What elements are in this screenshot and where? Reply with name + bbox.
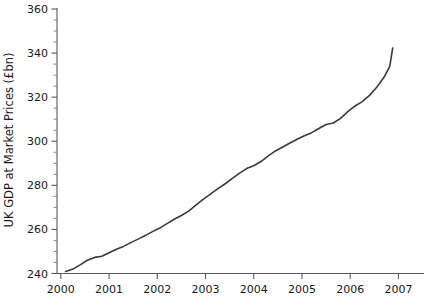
y-tick-label: 280 (27, 179, 48, 192)
x-tick-label: 2002 (143, 283, 171, 296)
y-tick-label: 300 (27, 135, 48, 148)
chart-figure: 240260280300320340360 UK GDP at Market P… (0, 0, 433, 304)
y-axis-title: UK GDP at Market Prices (£bn) (2, 53, 16, 228)
x-tick-label: 2003 (192, 283, 220, 296)
x-tick-label: 2004 (240, 283, 268, 296)
y-tick-label: 340 (27, 47, 48, 60)
y-tick-label: 360 (27, 3, 48, 16)
x-tick-label: 2001 (95, 283, 123, 296)
x-tick-label: 2006 (336, 283, 364, 296)
y-tick-label: 320 (27, 91, 48, 104)
x-tick-label: 2007 (384, 283, 412, 296)
x-tick-label: 2000 (47, 283, 75, 296)
line-chart: 240260280300320340360 UK GDP at Market P… (0, 0, 433, 304)
y-tick-label: 260 (27, 223, 48, 236)
x-tick-label: 2005 (288, 283, 316, 296)
y-tick-label: 240 (27, 268, 48, 281)
chart-background (0, 0, 433, 304)
